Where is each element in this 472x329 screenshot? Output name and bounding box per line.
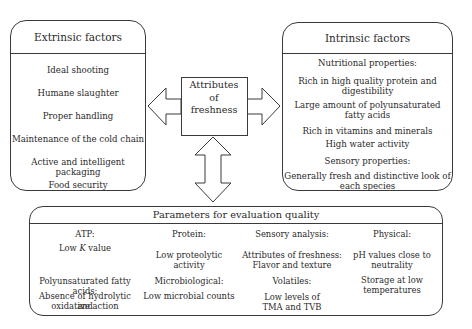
protein-value-1: Low proteolytic [140,250,238,260]
sensory-item: each species [283,181,452,191]
pufa-value-2: oxidative action [30,301,140,311]
extrinsic-item: Proper handling [11,111,145,121]
extrinsic-item: Active and intelligent packaging [11,157,145,177]
storage-value-1: Storage at low [346,275,438,285]
physical-value-2: neutrality [346,260,438,270]
nutritional-heading: Nutritional properties: [283,58,452,68]
storage-value-2: temperatures [346,285,438,295]
sensory-heading: Sensory properties: [283,156,452,166]
nutritional-item: Rich in high quality protein and [283,76,452,86]
micro-value: Low microbial counts [140,291,238,301]
right-arrow-icon [247,88,280,125]
center-line-3: freshness [181,104,247,117]
center-line-1: Attributes [181,79,247,92]
volatiles-value-1: Low levels of [238,292,346,302]
parameters-title: Parameters for evaluation quality [30,207,442,224]
intrinsic-title: Intrinsic factors [283,23,452,54]
vertical-double-arrow-icon [195,137,231,202]
extrinsic-item: Humane slaughter [11,88,145,98]
protein-heading: Protein: [140,229,238,239]
nutritional-item: Large amount of polyunsaturated [283,100,452,110]
extrinsic-factors-box: Extrinsic factors Ideal shooting Humane … [10,20,146,191]
atp-heading: ATP: [30,229,140,239]
extrinsic-item: Ideal shooting [11,65,145,75]
intrinsic-factors-box: Intrinsic factors Nutritional properties… [282,22,453,191]
nutritional-item: digestibility [283,86,452,96]
center-label: Attributes of freshness [181,79,247,117]
physical-heading: Physical: [346,229,438,239]
protein-value-2: activity [140,260,238,270]
center-line-2: of [181,92,247,105]
extrinsic-title: Extrinsic factors [11,21,145,54]
sensory-analysis-heading: Sensory analysis: [238,229,346,239]
nutritional-item: Rich in vitamins and minerals [283,126,452,136]
atp-value: Low K value [30,243,140,253]
sensory-analysis-value-2: Flavor and texture [238,260,346,270]
volatiles-heading: Volatiles: [238,276,346,286]
physical-value-1: pH values close to [346,250,438,260]
left-arrow-icon [148,88,181,125]
nutritional-item: fatty acids [283,110,452,120]
nutritional-item: High water activity [283,139,452,149]
micro-heading: Microbiological: [140,276,238,286]
extrinsic-item: Maintenance of the cold chain [11,134,145,144]
extrinsic-item: Food security [11,180,145,190]
sensory-analysis-value-1: Attributes of freshness: [238,250,346,260]
sensory-item: Generally fresh and distinctive look of [283,171,452,181]
volatiles-value-2: TMA and TVB [238,302,346,312]
parameters-box: Parameters for evaluation quality ATP: L… [29,206,443,316]
